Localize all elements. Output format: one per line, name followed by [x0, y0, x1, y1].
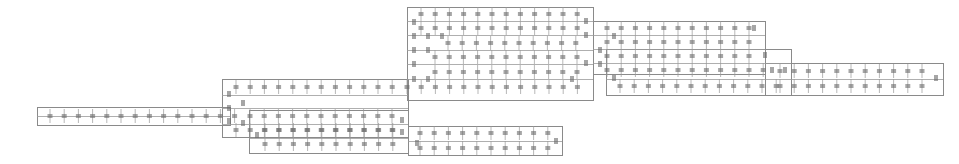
battery-cell-icon: [778, 64, 783, 78]
module-frames: [38, 8, 944, 156]
battery-cell-icon: [62, 109, 67, 123]
battery-cell-icon: [347, 109, 352, 123]
battery-cell-icon: [517, 126, 522, 140]
battery-cell-icon: [619, 35, 624, 49]
battery-cell-icon: [517, 141, 522, 155]
battery-cell-icon: [474, 126, 479, 140]
battery-cell-icon: [290, 123, 295, 137]
battery-cell-icon: [413, 47, 415, 53]
battery-cell-icon: [504, 50, 509, 64]
battery-cell-icon: [935, 75, 937, 81]
battery-cell-icon: [446, 36, 451, 50]
battery-cell-icon: [532, 80, 537, 94]
battery-cell-icon: [413, 33, 415, 39]
battery-cell-icon: [242, 100, 244, 106]
battery-cell-icon: [518, 7, 523, 21]
battery-cell-icon: [633, 21, 638, 35]
battery-cell-icon: [745, 79, 750, 93]
battery-cell-icon: [571, 76, 573, 82]
battery-cell-icon: [891, 79, 896, 93]
battery-cell-icon: [661, 21, 666, 35]
battery-cell-icon: [585, 32, 587, 38]
battery-cell-icon: [531, 141, 536, 155]
battery-cell-icon: [427, 76, 429, 82]
frame-bottom-mid: [250, 111, 409, 154]
battery-cell-icon: [413, 76, 415, 82]
battery-cell-icon: [704, 49, 709, 63]
battery-cell-icon: [305, 80, 310, 94]
battery-cell-icon: [661, 35, 666, 49]
battery-cell-icon: [747, 35, 752, 49]
battery-cell-icon: [319, 137, 324, 151]
battery-cell-icon: [433, 65, 438, 79]
battery-cell-icon: [147, 109, 152, 123]
battery-cell-icon: [401, 129, 403, 135]
battery-cell-icon: [849, 79, 854, 93]
battery-cell-icon: [546, 21, 551, 35]
battery-cell-icon: [427, 47, 429, 53]
battery-cell-icon: [774, 79, 779, 93]
battery-cell-icon: [461, 80, 466, 94]
battery-cell-icon: [348, 137, 353, 151]
battery-cell-icon: [333, 109, 338, 123]
battery-cell-icon: [518, 21, 523, 35]
battery-cell-icon: [461, 21, 466, 35]
battery-cell-icon: [532, 7, 537, 21]
battery-cell-icon: [834, 64, 839, 78]
battery-cell-icon: [690, 35, 695, 49]
battery-cell-icon: [390, 80, 395, 94]
battery-cell-icon: [599, 47, 601, 53]
battery-cell-icon: [532, 21, 537, 35]
battery-cell-icon: [545, 141, 550, 155]
battery-cell-icon: [546, 7, 551, 21]
battery-cell-icon: [661, 49, 666, 63]
battery-cell-icon: [419, 7, 424, 21]
battery-cell-icon: [717, 79, 722, 93]
battery-cell-icon: [676, 35, 681, 49]
battery-cell-icon: [476, 80, 481, 94]
battery-cell-icon: [820, 79, 825, 93]
battery-cell-icon: [304, 109, 309, 123]
battery-cell-icon: [460, 126, 465, 140]
battery-cell-icon: [390, 123, 395, 137]
battery-cell-icon: [376, 123, 381, 137]
battery-cell-icon: [605, 49, 610, 63]
battery-cell-icon: [747, 21, 752, 35]
battery-cell-icon: [674, 79, 679, 93]
battery-cell-icon: [647, 21, 652, 35]
battery-cell-icon: [433, 7, 438, 21]
battery-cell-icon: [488, 36, 493, 50]
battery-cell-icon: [489, 141, 494, 155]
battery-cell-icon: [690, 49, 695, 63]
battery-cell-icon: [877, 79, 882, 93]
battery-cell-icon: [490, 80, 495, 94]
battery-cell-icon: [690, 21, 695, 35]
battery-cell-icon: [573, 36, 578, 50]
battery-cell-icon: [433, 80, 438, 94]
battery-cell-icon: [863, 79, 868, 93]
battery-cell-icon: [461, 7, 466, 21]
battery-cell-icon: [545, 36, 550, 50]
battery-cell-icon: [474, 36, 479, 50]
battery-cell-icon: [605, 21, 610, 35]
battery-cell-icon: [532, 65, 537, 79]
battery-cell-icon: [460, 141, 465, 155]
battery-cell-icon: [905, 64, 910, 78]
battery-cell-icon: [732, 21, 737, 35]
battery-cell-icon: [401, 117, 403, 123]
battery-cell-icon: [48, 109, 53, 123]
battery-cell-icon: [561, 21, 566, 35]
battery-cell-icon: [920, 64, 925, 78]
battery-cell-icon: [232, 109, 237, 123]
battery-cell-icon: [489, 50, 494, 64]
battery-cell-icon: [461, 50, 466, 64]
battery-cell-icon: [732, 35, 737, 49]
battery-cell-icon: [547, 80, 552, 94]
battery-cell-icon: [575, 80, 580, 94]
battery-cell-icon: [504, 7, 509, 21]
battery-cell-icon: [891, 64, 896, 78]
battery-cell-icon: [632, 79, 637, 93]
battery-cell-icon: [475, 50, 480, 64]
battery-cell-icon: [276, 123, 281, 137]
battery-cell-icon: [290, 80, 295, 94]
